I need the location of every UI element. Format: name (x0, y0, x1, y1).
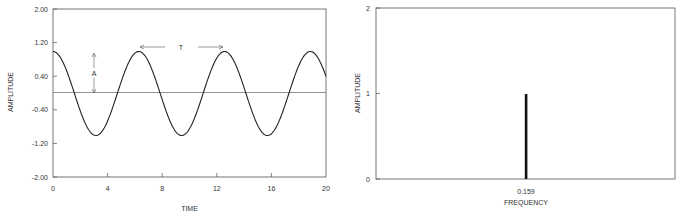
left-ytick: -1.20 (32, 140, 48, 147)
right-ytick: 1 (366, 90, 370, 97)
period-label: T (179, 44, 184, 51)
frequency-domain-chart: 2 1 0 0.159 FREQUENCY AMPLITUDE (354, 5, 675, 208)
left-ytick: -0.40 (32, 106, 48, 113)
right-x-axis-label: FREQUENCY (504, 199, 548, 207)
left-xtick: 16 (268, 185, 276, 192)
right-ytick: 0 (366, 176, 370, 183)
left-xtick: 20 (322, 185, 330, 192)
time-domain-chart: 2.00 1.20 0.40 -0.40 -1.20 -2.00 0 4 8 1… (7, 6, 330, 213)
spectral-line-bar (525, 94, 528, 179)
left-xtick: 8 (160, 185, 164, 192)
left-ytick: 1.20 (34, 39, 48, 46)
left-x-axis-label: TIME (181, 205, 198, 212)
left-ytick: -2.00 (32, 174, 48, 181)
left-y-axis-label: AMPLITUDE (7, 72, 14, 112)
left-xtick: 0 (51, 185, 55, 192)
figure: 2.00 1.20 0.40 -0.40 -1.20 -2.00 0 4 8 1… (0, 0, 680, 213)
left-xtick: 4 (106, 185, 110, 192)
left-xtick: 12 (213, 185, 221, 192)
left-ytick: 0.40 (34, 73, 48, 80)
left-ytick: 2.00 (34, 6, 48, 13)
right-y-axis-label: AMPLITUDE (354, 73, 361, 113)
right-ytick: 2 (366, 5, 370, 12)
right-xtick: 0.159 (517, 188, 535, 195)
amplitude-label: A (92, 70, 97, 77)
